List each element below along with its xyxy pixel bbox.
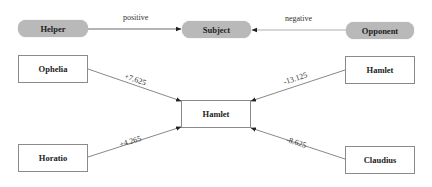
positive-edge-label: positive [123,13,148,22]
opponent-node: Opponent [346,22,414,39]
hamlet-opponent-node: Hamlet [345,56,415,84]
opponent-label: Opponent [362,26,398,36]
claudius-node: Claudius [345,146,415,174]
subject-node: Subject [182,21,251,38]
helper-node: Helper [18,20,88,37]
helper-label: Helper [40,24,65,34]
horatio-label: Horatio [39,153,67,163]
actantial-diagram: Helper Subject Opponent positive negativ… [0,0,432,187]
ophelia-node: Ophelia [18,55,88,83]
claudius-label: Claudius [364,155,397,165]
negative-edge-label: negative [285,14,312,23]
hamlet-center-label: Hamlet [203,109,230,119]
hamlet-center-node: Hamlet [181,100,251,128]
ophelia-label: Ophelia [39,64,68,74]
horatio-node: Horatio [18,144,88,172]
subject-label: Subject [203,25,230,35]
hamlet-opponent-label: Hamlet [367,65,394,75]
